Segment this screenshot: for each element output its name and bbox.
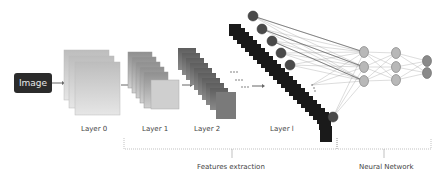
features-bracket (124, 138, 337, 149)
layer1-label: Layer 1 (142, 125, 168, 133)
cnn-diagram (0, 0, 445, 180)
layerl-label: Layer l (270, 125, 294, 133)
hidden-layer-2 (392, 48, 401, 86)
layer2-stack (178, 48, 236, 119)
arrow-input-to-layer0 (52, 81, 65, 85)
output-layer (423, 56, 432, 79)
ellipsis-neurons (311, 84, 315, 91)
hidden-layer-1 (360, 47, 369, 87)
layer0-label: Layer 0 (81, 125, 107, 133)
neural-network-label: Neural Network (359, 163, 414, 171)
arrow-layer2-to-layerl (252, 84, 265, 88)
layer1-stack (128, 52, 179, 109)
layer0-stack (64, 50, 120, 115)
features-extraction-label: Features extraction (197, 163, 265, 171)
layer2-label: Layer 2 (194, 125, 220, 133)
ellipsis-dots (230, 71, 248, 87)
network-bracket (337, 138, 431, 149)
connections-hidden1-to-hidden2 (364, 52, 396, 81)
